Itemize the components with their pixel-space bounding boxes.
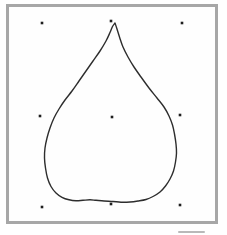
control-point xyxy=(110,20,113,23)
control-point xyxy=(181,22,184,25)
control-point xyxy=(110,203,113,206)
control-point xyxy=(179,204,182,207)
control-point xyxy=(41,206,44,209)
figure-canvas xyxy=(0,0,227,235)
control-point xyxy=(111,116,114,119)
figure-page xyxy=(0,0,227,235)
control-point xyxy=(39,115,42,118)
control-point xyxy=(179,114,182,117)
control-point xyxy=(41,22,44,25)
figure-frame xyxy=(8,6,217,223)
scan-artifact-mark xyxy=(178,231,205,233)
